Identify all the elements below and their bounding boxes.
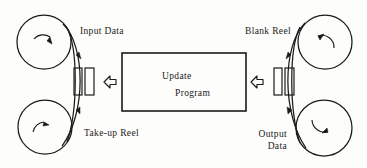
blank-reel-spin-arrowhead bbox=[318, 34, 324, 40]
input-data-reel-circle bbox=[17, 15, 71, 69]
right-head-2 bbox=[285, 68, 294, 95]
diagram-drawing bbox=[0, 0, 367, 168]
process-box-label-line2: Program bbox=[175, 88, 210, 98]
blank-reel-label: Blank Reel bbox=[245, 25, 291, 37]
left-head-2 bbox=[85, 68, 94, 95]
blank-reel-circle bbox=[298, 15, 352, 69]
right-head-1 bbox=[274, 68, 282, 95]
input-data-reel-spin-arrow bbox=[34, 35, 50, 39]
left-head-1 bbox=[74, 68, 82, 95]
take-up-reel-spin-arrow bbox=[33, 122, 44, 132]
process-box-label-line1: Update bbox=[162, 71, 192, 81]
take-up-reel-circle bbox=[18, 100, 72, 154]
left-flow-arrow bbox=[104, 76, 116, 88]
process-box bbox=[122, 53, 246, 111]
output-data-reel-label: Output Data bbox=[245, 128, 287, 152]
output-data-reel-circle bbox=[296, 100, 352, 156]
input-data-reel-spin-arrowhead bbox=[47, 37, 52, 44]
output-data-reel-label-line1: Output bbox=[259, 129, 288, 139]
output-data-reel-label-line2: Data bbox=[245, 140, 287, 152]
take-up-reel-spin-arrowhead bbox=[43, 122, 49, 126]
output-data-reel-spin-arrowhead bbox=[322, 128, 328, 133]
right-flow-arrow bbox=[251, 76, 263, 88]
take-up-reel-label: Take-up Reel bbox=[84, 127, 139, 139]
diagram-canvas: Update Program Input Data Take-up Reel B… bbox=[0, 0, 367, 168]
input-data-reel-label: Input Data bbox=[80, 25, 124, 37]
